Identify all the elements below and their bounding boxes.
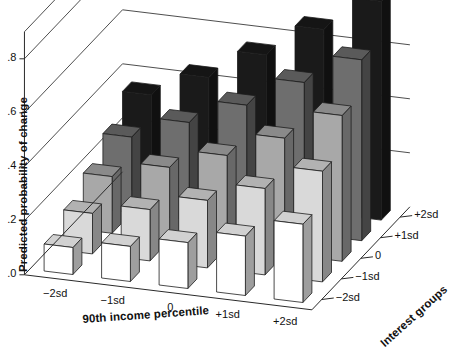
z-tick-label-3: −1sd [355, 270, 379, 282]
y-axis-title: Predicted probability of change [17, 97, 29, 272]
z-tick-label-1: +1sd [395, 229, 419, 241]
z-tick-label-0: +2sd [414, 208, 438, 220]
y-tick-label-1: .2 [0, 213, 16, 225]
x-tick-label-1: −1sd [93, 294, 133, 306]
x-tick-label-3: +1sd [208, 308, 248, 320]
x-tick-label-4: +2sd [265, 315, 305, 327]
x-tick-label-0: −2sd [35, 287, 75, 299]
y-tick-label-3: .6 [0, 105, 16, 117]
y-tick-label-4: .8 [0, 51, 16, 63]
y-tick-label-0: .0 [0, 267, 16, 279]
z-tick-label-2: 0 [375, 249, 381, 261]
z-tick-label-4: −2sd [336, 291, 360, 303]
y-tick-label-2: .4 [0, 159, 16, 171]
